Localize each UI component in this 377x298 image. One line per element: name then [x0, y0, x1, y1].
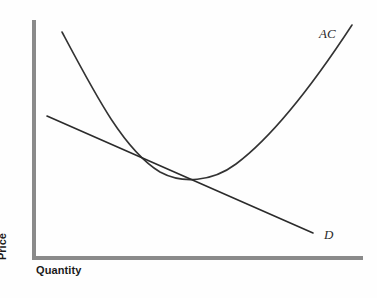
ac-curve-label: AC [319, 26, 336, 42]
economics-chart-figure: Price Quantity AC D [0, 0, 377, 298]
x-axis-label: Quantity [36, 264, 81, 276]
d-curve-label: D [324, 227, 333, 243]
y-axis-label: Price [0, 233, 8, 260]
plot-canvas [0, 0, 377, 298]
demand-curve [47, 116, 313, 233]
average-cost-curve [62, 25, 352, 180]
